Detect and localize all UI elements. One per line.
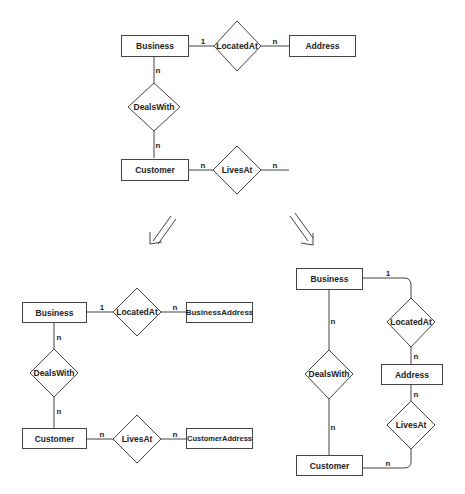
entity-business-a: Business [22,302,87,323]
relationship-locatedat-b: LocatedAt [390,317,432,327]
double-arrow-down-left-icon [150,216,176,244]
double-arrow-down-right-icon [290,213,313,245]
cardinality-label: 1 [100,303,104,312]
entity-address: Address [289,35,356,57]
relationship-livesat: LivesAt [222,165,253,175]
cardinality-label: n [201,161,206,170]
entity-customer-address-a: CustomerAddress [186,428,253,449]
cardinality-label: n [57,333,62,342]
entity-customer-b: Customer [296,455,363,476]
relationship-locatedat-a: LocatedAt [116,307,158,317]
relationship-dealswith: DealsWith [133,102,174,112]
cardinality-label: n [331,423,336,432]
relationship-livesat-b: LivesAt [396,420,427,430]
entity-address-b: Address [381,364,443,385]
cardinality-label: 1 [386,269,390,278]
cardinality-label: n [57,407,62,416]
cardinality-label: n [386,459,391,468]
entity-business-b: Business [296,268,363,290]
cardinality-label: n [156,66,161,75]
cardinality-label: n [173,303,178,312]
cardinality-label: n [100,430,105,439]
relationship-locatedat: LocatedAt [216,41,258,51]
cardinality-label: n [414,352,419,361]
entity-customer-a: Customer [22,428,87,449]
er-diagram-canvas: Business Address Customer LocatedAt Deal… [0,0,465,494]
relationship-dealswith-a: DealsWith [33,368,74,378]
cardinality-label: 1 [201,37,205,46]
cardinality-label: n [414,390,419,399]
cardinality-label: n [273,161,278,170]
entity-customer: Customer [121,159,189,181]
relationship-livesat-a: LivesAt [122,434,153,444]
cardinality-label: n [173,430,178,439]
cardinality-label: n [156,141,161,150]
entity-business-address-a: BusinessAddress [186,302,253,323]
cardinality-label: n [331,317,336,326]
entity-business: Business [121,35,189,57]
cardinality-label: n [273,37,278,46]
relationship-dealswith-b: DealsWith [308,369,349,379]
